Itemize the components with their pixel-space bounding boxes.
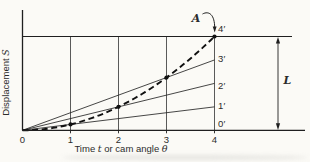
curve-point-4	[212, 34, 216, 38]
curve-point-1	[68, 122, 72, 126]
x-axis-label: Time t or cam angle θ	[74, 143, 167, 154]
displacement-diagram-svg: 012340′1′2′3′4′Time t or cam angle θDisp…	[0, 0, 310, 162]
right-label-4: 4′	[218, 23, 225, 34]
curve-label-a: A	[191, 12, 201, 25]
y-axis-label: Displacement S	[0, 49, 11, 116]
x-tick-label-1: 1	[68, 134, 73, 145]
rise-dimension-arrowhead-bottom	[276, 123, 280, 130]
curve-point-3	[164, 75, 168, 79]
curve-label-arrowhead	[213, 26, 217, 32]
rise-label-l: L	[283, 74, 292, 87]
x-tick-label-0: 0	[20, 134, 25, 145]
curve-point-2	[116, 105, 120, 109]
right-label-1: 1′	[218, 100, 225, 111]
cam-displacement-diagram: 012340′1′2′3′4′Time t or cam angle θDisp…	[0, 0, 310, 162]
x-tick-label-4: 4	[212, 134, 217, 145]
rise-dimension-arrowhead-top	[276, 37, 280, 44]
right-label-0: 0′	[218, 118, 225, 129]
curve-label-arrow	[203, 13, 215, 29]
right-label-3: 3′	[218, 53, 225, 64]
right-label-2: 2′	[218, 80, 225, 91]
